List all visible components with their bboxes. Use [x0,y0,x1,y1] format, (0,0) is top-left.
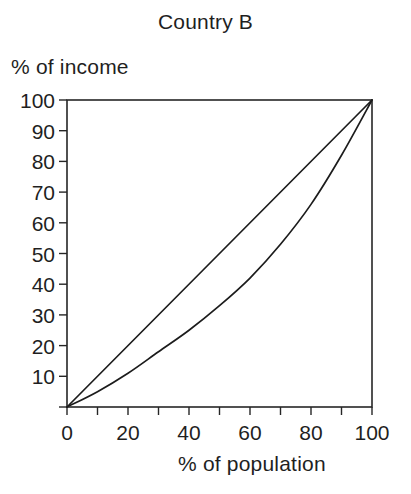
line-of-equality [67,100,372,407]
x-axis-label: % of population [178,452,326,476]
y-axis-tick-marks [59,100,67,407]
lorenz-curve-chart: Country B % of income [0,0,411,494]
x-tick-label: 40 [177,421,200,444]
x-tick-label: 100 [354,421,389,444]
y-tick-label: 60 [32,212,55,235]
x-axis-tick-marks [67,407,372,415]
y-axis-tick-labels: 100 90 80 70 60 50 40 30 20 10 [20,89,55,388]
y-tick-label: 30 [32,304,55,327]
y-tick-label: 40 [32,273,55,296]
x-tick-label: 20 [116,421,139,444]
y-tick-label: 10 [32,365,55,388]
y-tick-label: 90 [32,120,55,143]
x-axis-tick-labels: 0 20 40 60 80 100 [61,421,389,444]
y-tick-label: 20 [32,335,55,358]
y-tick-label: 70 [32,181,55,204]
plot-area: 100 90 80 70 60 50 40 30 20 10 0 20 40 6… [0,0,411,494]
x-tick-label: 0 [61,421,73,444]
y-tick-label: 100 [20,89,55,112]
y-tick-label: 50 [32,243,55,266]
y-tick-label: 80 [32,150,55,173]
x-tick-label: 80 [299,421,322,444]
x-tick-label: 60 [238,421,261,444]
